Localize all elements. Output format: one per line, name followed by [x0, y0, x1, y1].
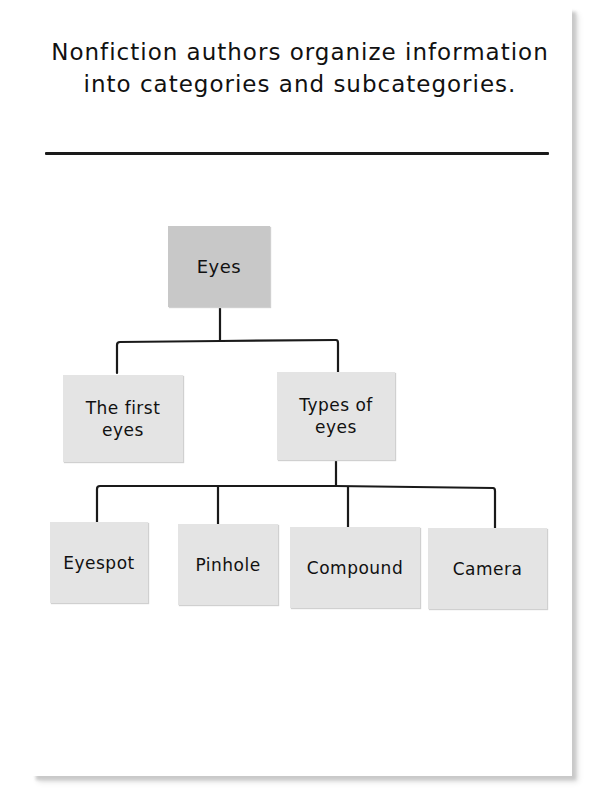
- node-label: Compound: [307, 557, 403, 579]
- node-label: Types of eyes: [286, 394, 386, 438]
- tree-node-types-of-eyes: Types of eyes: [277, 372, 395, 460]
- node-label: Pinhole: [195, 554, 260, 576]
- node-label: Eyespot: [63, 552, 134, 574]
- node-label: Camera: [453, 558, 523, 580]
- tree-node-camera: Camera: [428, 528, 547, 609]
- tree-node-eyes: Eyes: [168, 226, 270, 307]
- tree-node-compound: Compound: [290, 527, 420, 608]
- tree-node-eyespot: Eyespot: [50, 522, 148, 603]
- node-label: Eyes: [197, 256, 241, 278]
- tree-node-pinhole: Pinhole: [178, 524, 278, 605]
- tree-node-first-eyes: The first eyes: [63, 375, 183, 462]
- node-label: The first eyes: [73, 397, 173, 441]
